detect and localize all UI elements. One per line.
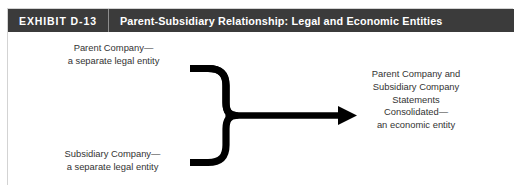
consolidated-line-3: Statements bbox=[336, 94, 496, 107]
exhibit-title-label: Parent-Subsidiary Relationship: Legal an… bbox=[109, 15, 443, 27]
parent-company-line-1: Parent Company— bbox=[36, 42, 191, 55]
exhibit-body: Parent Company— a separate legal entity … bbox=[8, 32, 514, 186]
subsidiary-company-label: Subsidiary Company— a separate legal ent… bbox=[30, 148, 195, 173]
consolidated-line-4: Consolidated— bbox=[336, 106, 496, 119]
consolidated-line-5: an economic entity bbox=[336, 119, 496, 132]
curly-brace-upper-half bbox=[190, 69, 236, 116]
parent-company-line-2: a separate legal entity bbox=[36, 55, 191, 68]
subsidiary-company-line-1: Subsidiary Company— bbox=[30, 148, 195, 161]
consolidated-statements-label: Parent Company and Subsidiary Company St… bbox=[336, 68, 496, 132]
exhibit-number-label: EXHIBIT D-13 bbox=[8, 15, 97, 27]
curly-brace-lower-half bbox=[190, 116, 236, 163]
consolidated-line-1: Parent Company and bbox=[336, 68, 496, 81]
parent-company-label: Parent Company— a separate legal entity bbox=[36, 42, 191, 67]
exhibit-figure: EXHIBIT D-13 Parent-Subsidiary Relations… bbox=[7, 8, 513, 185]
consolidated-line-2: Subsidiary Company bbox=[336, 81, 496, 94]
subsidiary-company-line-2: a separate legal entity bbox=[30, 161, 195, 174]
exhibit-header-bar: EXHIBIT D-13 Parent-Subsidiary Relations… bbox=[8, 9, 514, 32]
